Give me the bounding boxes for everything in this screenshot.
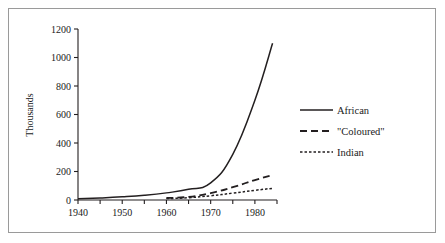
data-series [78, 43, 273, 199]
legend-label-coloured: "Coloured" [337, 126, 385, 137]
legend-label-african: African [337, 105, 370, 116]
figure-container: Thousands 020040060080010001200 19401950… [0, 0, 445, 243]
x-tick-label-1980: 1980 [245, 207, 265, 218]
y-tick-label-1200: 1200 [51, 24, 71, 35]
y-tick-label-1000: 1000 [51, 52, 71, 63]
y-axis-title-text: Thousands [24, 93, 35, 136]
x-tick-label-1940: 1940 [68, 207, 88, 218]
legend-label-indian: Indian [337, 147, 365, 158]
y-axis-tick-labels: 020040060080010001200 [51, 24, 71, 206]
y-tick-label-600: 600 [56, 109, 71, 120]
line-chart: Thousands 020040060080010001200 19401950… [0, 0, 445, 243]
chart-legend: African"Coloured"Indian [300, 105, 385, 158]
y-axis-title: Thousands [24, 93, 35, 136]
y-tick-label-0: 0 [66, 195, 71, 206]
x-tick-label-1970: 1970 [201, 207, 221, 218]
x-tick-label-1960: 1960 [156, 207, 176, 218]
x-axis-tick-labels: 19401950196019701980 [68, 207, 265, 218]
chart-axes [74, 29, 277, 204]
x-tick-label-1950: 1950 [112, 207, 132, 218]
series-line-african [78, 43, 273, 199]
y-tick-label-400: 400 [56, 138, 71, 149]
y-axis-ticks [74, 29, 78, 200]
series-line-coloured [166, 175, 272, 198]
x-axis-ticks [78, 200, 277, 204]
y-tick-label-800: 800 [56, 81, 71, 92]
y-tick-label-200: 200 [56, 166, 71, 177]
